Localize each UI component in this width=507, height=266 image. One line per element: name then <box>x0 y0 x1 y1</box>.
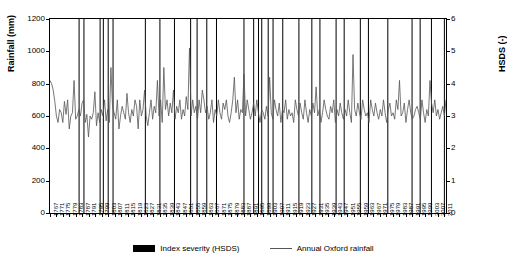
x-tick-mark <box>89 214 90 217</box>
y-tick-right: 3 <box>451 111 465 120</box>
x-tick-mark <box>147 214 148 217</box>
x-tick-mark <box>438 214 439 217</box>
plot-area <box>49 18 447 214</box>
legend-label-rainfall: Annual Oxford rainfall <box>297 244 374 253</box>
x-tick-mark <box>399 214 400 217</box>
y-tick-right: 1 <box>451 176 465 185</box>
x-tick-mark <box>334 214 335 217</box>
x-tick-mark <box>153 214 154 217</box>
y-tick-mark-right <box>447 19 450 20</box>
y-tick-right: 6 <box>451 14 465 23</box>
hsds-spike <box>206 19 207 213</box>
x-tick-mark <box>121 214 122 217</box>
legend-item-hsds: Index severity (HSDS) <box>133 244 239 253</box>
x-tick-mark <box>166 214 167 217</box>
x-tick-mark <box>347 214 348 217</box>
x-tick-mark <box>322 214 323 217</box>
x-tick-mark <box>179 214 180 217</box>
x-tick-mark <box>186 214 187 217</box>
hsds-spike <box>261 19 262 213</box>
x-tick-mark <box>289 214 290 217</box>
x-tick: 2011 <box>447 203 453 216</box>
x-tick-mark <box>283 214 284 217</box>
x-tick-mark <box>63 214 64 217</box>
x-tick-mark <box>218 214 219 217</box>
y-tick-left: 200 <box>17 176 45 185</box>
hsds-spike <box>79 19 80 213</box>
x-tick-mark <box>56 214 57 217</box>
x-tick-mark <box>373 214 374 217</box>
x-tick-mark <box>328 214 329 217</box>
x-tick-mark <box>50 214 51 217</box>
hsds-spike <box>282 19 283 213</box>
y-tick-right: 5 <box>451 46 465 55</box>
x-tick-mark <box>360 214 361 217</box>
x-tick-mark <box>192 214 193 217</box>
x-tick-mark <box>212 214 213 217</box>
y-tick-right: 2 <box>451 143 465 152</box>
hsds-spike <box>431 19 432 213</box>
x-tick-mark <box>237 214 238 217</box>
hsds-spike <box>145 19 146 213</box>
x-tick-mark <box>257 214 258 217</box>
chart-legend: Index severity (HSDS) Annual Oxford rain… <box>0 244 507 253</box>
y-tick-left: 0 <box>17 208 45 217</box>
hsds-spike <box>83 19 84 213</box>
x-tick-mark <box>134 214 135 217</box>
x-tick-mark <box>141 214 142 217</box>
x-tick-mark <box>115 214 116 217</box>
x-tick-mark <box>244 214 245 217</box>
y-tick-left: 1000 <box>17 46 45 55</box>
x-tick-mark <box>69 214 70 217</box>
legend-item-rainfall: Annual Oxford rainfall <box>270 244 374 253</box>
x-tick-mark <box>270 214 271 217</box>
x-tick-mark <box>444 214 445 217</box>
x-tick-mark <box>354 214 355 217</box>
y-tick-right: 0 <box>451 208 465 217</box>
x-tick-mark <box>341 214 342 217</box>
x-tick-mark <box>250 214 251 217</box>
x-tick-mark <box>173 214 174 217</box>
y-tick-left: 600 <box>17 111 45 120</box>
y-tick-mark-right <box>447 148 450 149</box>
y-tick-right: 4 <box>451 79 465 88</box>
x-tick-mark <box>419 214 420 217</box>
legend-swatch-line-icon <box>270 245 292 252</box>
x-tick-mark <box>315 214 316 217</box>
x-tick-mark <box>95 214 96 217</box>
x-tick-mark <box>367 214 368 217</box>
y-tick-mark-right <box>447 181 450 182</box>
x-tick-mark <box>108 214 109 217</box>
x-tick-mark <box>225 214 226 217</box>
x-tick-mark <box>406 214 407 217</box>
x-tick-mark <box>412 214 413 217</box>
x-tick-mark <box>128 214 129 217</box>
rainfall-line <box>50 48 446 137</box>
y-axis-right-title: HSDS (-) <box>497 36 507 73</box>
x-tick-mark <box>199 214 200 217</box>
x-tick-mark <box>276 214 277 217</box>
chart-svg <box>50 19 446 213</box>
y-axis-left-title: Rainfall (mm) <box>6 15 16 72</box>
hsds-spike <box>253 19 254 213</box>
x-tick-mark <box>102 214 103 217</box>
chart-figure: Rainfall (mm) HSDS (-) 02004006008001000… <box>0 0 507 266</box>
x-tick-mark <box>380 214 381 217</box>
hsds-spike <box>243 19 244 213</box>
y-tick-left: 1200 <box>17 14 45 23</box>
y-tick-left: 800 <box>17 79 45 88</box>
legend-label-hsds: Index severity (HSDS) <box>160 244 239 253</box>
hsds-spike <box>159 19 160 213</box>
x-tick-mark <box>76 214 77 217</box>
x-tick-mark <box>431 214 432 217</box>
x-tick-mark <box>160 214 161 217</box>
x-tick-mark <box>205 214 206 217</box>
x-tick-mark <box>82 214 83 217</box>
x-tick-mark <box>302 214 303 217</box>
legend-swatch-bar-icon <box>133 245 155 252</box>
x-tick-mark <box>393 214 394 217</box>
x-tick-mark <box>425 214 426 217</box>
x-tick-mark <box>309 214 310 217</box>
y-tick-mark-right <box>447 84 450 85</box>
y-tick-left: 400 <box>17 143 45 152</box>
